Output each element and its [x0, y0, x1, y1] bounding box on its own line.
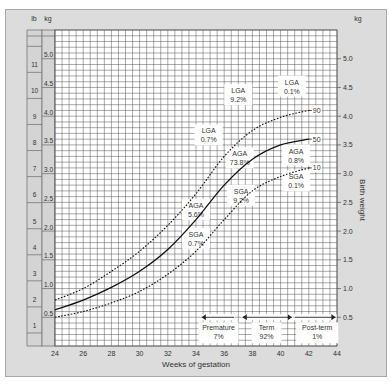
svg-text:3.5: 3.5	[44, 137, 53, 144]
svg-text:4.5: 4.5	[44, 80, 53, 87]
kg-right-axis: 0.51.01.52.02.53.03.54.04.55.0	[337, 55, 353, 321]
svg-text:AGA: AGA	[232, 150, 247, 157]
svg-text:AGA: AGA	[289, 148, 304, 155]
x-axis-title: Weeks of gestation	[162, 360, 230, 369]
kg-unit-label-left: kg	[44, 15, 52, 23]
svg-text:2.5: 2.5	[44, 195, 53, 202]
svg-text:3.0: 3.0	[44, 166, 53, 173]
svg-text:1: 1	[33, 322, 37, 329]
svg-text:1.0: 1.0	[343, 285, 353, 292]
svg-text:3: 3	[33, 270, 37, 277]
svg-text:24: 24	[51, 350, 59, 357]
svg-text:26: 26	[79, 350, 87, 357]
birth-weight-chart: 1234567891011 0.51.01.52.02.53.03.54.04.…	[0, 0, 390, 389]
svg-text:50: 50	[313, 136, 321, 143]
svg-text:Term: Term	[259, 324, 275, 331]
svg-text:6: 6	[33, 191, 37, 198]
svg-text:0.7%: 0.7%	[188, 240, 204, 247]
svg-text:0.8%: 0.8%	[288, 157, 304, 164]
svg-text:10: 10	[31, 87, 39, 94]
kg-unit-label-right: kg	[354, 15, 362, 23]
svg-text:1.5: 1.5	[343, 256, 353, 263]
svg-text:SGA: SGA	[289, 173, 304, 180]
svg-text:1.0: 1.0	[44, 281, 53, 288]
svg-text:10: 10	[313, 164, 321, 171]
svg-text:40: 40	[277, 350, 285, 357]
svg-text:90: 90	[313, 107, 321, 114]
svg-text:Post-term: Post-term	[302, 324, 333, 331]
svg-text:0.5: 0.5	[44, 310, 53, 317]
svg-text:28: 28	[108, 350, 116, 357]
svg-text:32: 32	[164, 350, 172, 357]
x-axis-ticks: 2426283032343638404244	[51, 350, 341, 357]
svg-text:2.5: 2.5	[343, 199, 353, 206]
left-axis-columns: 1234567891011 0.51.01.52.02.53.03.54.04.…	[27, 15, 55, 346]
svg-text:SGA: SGA	[189, 231, 204, 238]
svg-text:LGA: LGA	[231, 87, 245, 94]
svg-text:0.1%: 0.1%	[284, 88, 300, 95]
svg-text:Premature: Premature	[202, 324, 235, 331]
svg-text:1%: 1%	[312, 333, 322, 340]
y-axis-title: Birth weight	[358, 179, 367, 222]
svg-text:1.5: 1.5	[44, 252, 53, 259]
svg-text:LGA: LGA	[285, 79, 299, 86]
svg-text:2.0: 2.0	[44, 224, 53, 231]
svg-text:36: 36	[220, 350, 228, 357]
svg-text:2: 2	[33, 296, 37, 303]
svg-text:4.0: 4.0	[343, 113, 353, 120]
svg-text:0.5: 0.5	[343, 314, 353, 321]
svg-text:9.2%: 9.2%	[230, 96, 246, 103]
svg-text:SGA: SGA	[234, 188, 249, 195]
svg-text:44: 44	[333, 350, 341, 357]
svg-text:4.5: 4.5	[343, 84, 353, 91]
svg-text:92%: 92%	[259, 333, 273, 340]
svg-text:5: 5	[33, 218, 37, 225]
svg-text:34: 34	[192, 350, 200, 357]
svg-text:11: 11	[31, 61, 38, 68]
svg-text:LGA: LGA	[202, 127, 216, 134]
svg-text:0.1%: 0.1%	[288, 182, 304, 189]
svg-text:5.0: 5.0	[44, 51, 53, 58]
svg-text:3.0: 3.0	[343, 170, 353, 177]
svg-text:4.0: 4.0	[44, 109, 53, 116]
svg-text:2.0: 2.0	[343, 228, 353, 235]
svg-text:8: 8	[33, 139, 37, 146]
svg-text:4: 4	[33, 244, 37, 251]
gestation-periods: Premature7%Term92%Post-term1%	[199, 314, 339, 343]
svg-text:38: 38	[249, 350, 257, 357]
svg-text:9: 9	[33, 113, 37, 120]
svg-text:42: 42	[305, 350, 313, 357]
svg-text:30: 30	[136, 350, 144, 357]
svg-text:AGA: AGA	[189, 202, 204, 209]
svg-text:5.0: 5.0	[343, 55, 353, 62]
lb-unit-label: lb	[31, 15, 37, 22]
svg-text:0.7%: 0.7%	[201, 136, 217, 143]
svg-text:9.2%: 9.2%	[233, 197, 249, 204]
svg-text:3.5: 3.5	[343, 141, 353, 148]
svg-text:7: 7	[33, 165, 37, 172]
svg-text:7%: 7%	[213, 333, 223, 340]
